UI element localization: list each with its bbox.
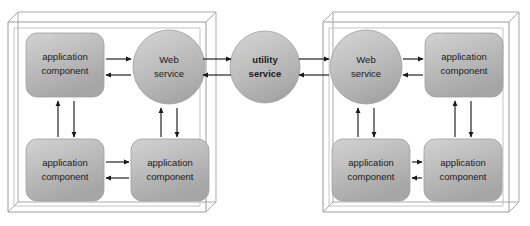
node-label-line1: Web [159, 54, 178, 65]
application-component-right-bottom-right[interactable]: application component [424, 139, 502, 201]
application-component-left-bottom-left[interactable]: application component [26, 139, 104, 201]
node-label-line1: application [42, 51, 87, 62]
application-component-right-bottom-left[interactable]: application component [332, 139, 410, 201]
diagram-canvas: application component Web service applic… [0, 0, 530, 226]
node-label-line1: application [42, 157, 87, 168]
node-label-line1: utility [252, 54, 278, 65]
application-component-right-top[interactable]: application component [425, 33, 503, 97]
node-label-line1: Web [356, 54, 375, 65]
node-label-line2: component [146, 171, 193, 182]
application-component-left-top[interactable]: application component [26, 33, 104, 97]
node-label-line1: application [348, 157, 393, 168]
node-label-line2: service [154, 68, 184, 79]
node-label-line2: component [439, 171, 486, 182]
node-label-line2: component [347, 171, 394, 182]
application-component-left-bottom-right[interactable]: application component [131, 139, 209, 201]
node-label-line1: application [440, 157, 485, 168]
utility-service[interactable]: utility service [230, 31, 300, 103]
node-label-line1: application [441, 51, 486, 62]
node-label-line2: service [351, 68, 381, 79]
node-label-line2: component [41, 171, 88, 182]
node-label-line2: component [440, 65, 487, 76]
web-service-left[interactable]: Web service [133, 30, 205, 104]
node-label-line2: service [249, 68, 282, 79]
web-service-right[interactable]: Web service [330, 30, 402, 104]
node-label-line1: application [147, 157, 192, 168]
node-label-line2: component [41, 65, 88, 76]
